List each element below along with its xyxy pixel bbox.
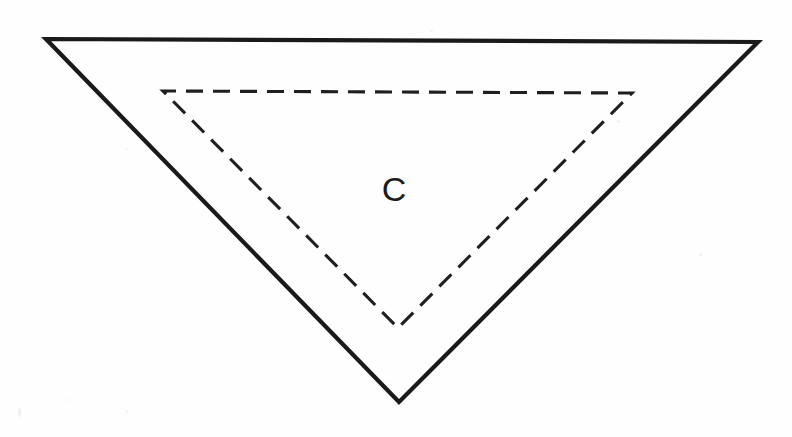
diagram-svg: C [0,0,792,437]
figure-canvas: C [0,0,792,437]
inner-dashed-triangle [163,91,632,328]
region-label-c: C [382,170,407,208]
